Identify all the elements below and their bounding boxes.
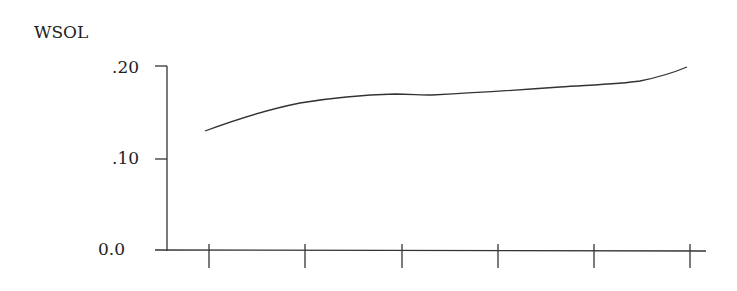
axes [155, 66, 706, 268]
y-tick-label-010: .10 [112, 148, 139, 168]
y-axis-label: WSOL [34, 22, 88, 42]
y-tick-label-000: 0.0 [98, 239, 125, 259]
chart: WSOL .20 .10 0.0 [0, 0, 737, 291]
x-axis-line [155, 250, 706, 251]
wsol-line [205, 67, 687, 131]
y-tick-label-020: .20 [112, 57, 139, 77]
